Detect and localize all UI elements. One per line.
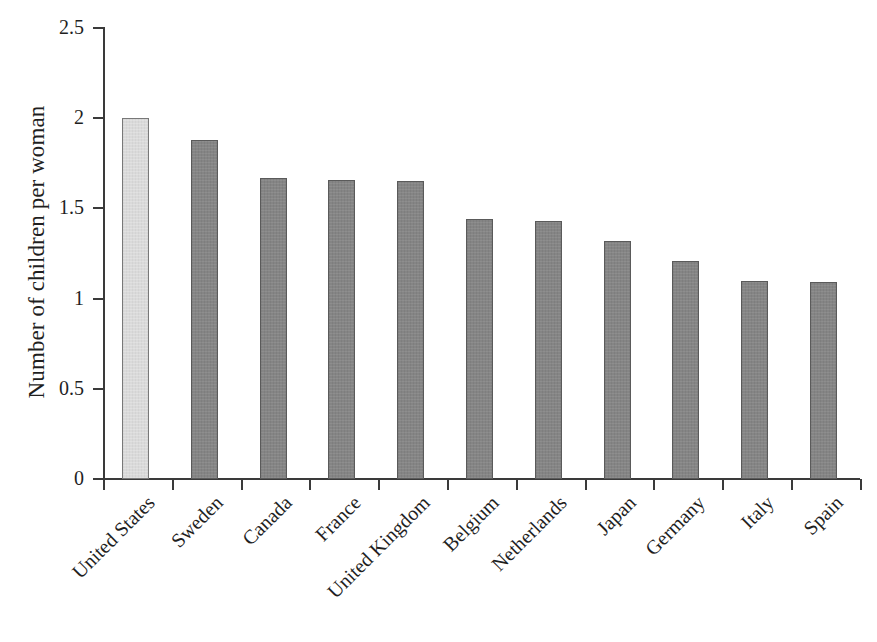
x-axis-tick bbox=[378, 479, 380, 490]
bar-chart: Number of children per woman 00.511.522.… bbox=[0, 0, 877, 642]
y-axis-tick-label: 0.5 bbox=[30, 378, 84, 398]
x-axis-label-sweden: Sweden bbox=[168, 492, 227, 551]
y-axis-tick bbox=[93, 207, 104, 209]
x-axis-tick bbox=[791, 479, 793, 490]
x-axis-tick bbox=[653, 479, 655, 490]
bar-germany[interactable] bbox=[672, 261, 699, 479]
y-axis-tick bbox=[93, 27, 104, 29]
bar-united-kingdom[interactable] bbox=[397, 181, 424, 479]
y-axis-tick-label: 0 bbox=[30, 468, 84, 488]
bar-japan[interactable] bbox=[604, 241, 631, 479]
bar-netherlands[interactable] bbox=[535, 221, 562, 479]
bar-united-states[interactable] bbox=[122, 118, 149, 479]
x-axis-label-france: France bbox=[311, 492, 364, 545]
y-axis-tick-label: 1.5 bbox=[30, 197, 84, 217]
y-axis-line bbox=[103, 27, 105, 480]
x-axis-label-germany: Germany bbox=[641, 492, 708, 559]
y-axis-tick bbox=[93, 117, 104, 119]
x-axis-label-japan: Japan bbox=[593, 492, 639, 538]
y-axis-tick-label: 2 bbox=[30, 107, 84, 127]
x-axis-tick bbox=[860, 479, 862, 490]
x-axis-tick bbox=[516, 479, 518, 490]
y-axis-tick bbox=[93, 388, 104, 390]
y-axis-tick-label: 1 bbox=[30, 288, 84, 308]
y-axis-tick bbox=[93, 298, 104, 300]
x-axis-tick bbox=[172, 479, 174, 490]
y-axis-tick-label: 2.5 bbox=[30, 17, 84, 37]
x-axis-tick bbox=[447, 479, 449, 490]
bar-france[interactable] bbox=[328, 180, 355, 479]
bar-sweden[interactable] bbox=[191, 140, 218, 479]
bar-italy[interactable] bbox=[741, 281, 768, 479]
x-axis-tick bbox=[241, 479, 243, 490]
bar-belgium[interactable] bbox=[466, 219, 493, 479]
x-axis-tick bbox=[585, 479, 587, 490]
x-axis-label-canada: Canada bbox=[239, 492, 296, 549]
x-axis-tick bbox=[103, 479, 105, 490]
bar-spain[interactable] bbox=[810, 282, 837, 479]
x-axis-label-italy: Italy bbox=[737, 492, 777, 532]
x-axis-label-belgium: Belgium bbox=[439, 492, 502, 555]
bar-canada[interactable] bbox=[260, 178, 287, 479]
x-axis-label-united-states: United States bbox=[68, 492, 158, 582]
x-axis-tick bbox=[722, 479, 724, 490]
x-axis-tick bbox=[309, 479, 311, 490]
x-axis-label-spain: Spain bbox=[799, 492, 845, 538]
